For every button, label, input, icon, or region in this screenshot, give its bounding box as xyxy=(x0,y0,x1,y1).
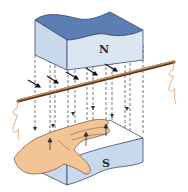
north-magnet: N xyxy=(35,12,143,70)
left-hand-rule-diagram: N S xyxy=(0,0,188,192)
south-pole-label: S xyxy=(102,157,110,170)
right-lead-coil xyxy=(169,62,176,104)
north-pole-label: N xyxy=(99,43,109,56)
left-lead-coil xyxy=(13,101,20,140)
